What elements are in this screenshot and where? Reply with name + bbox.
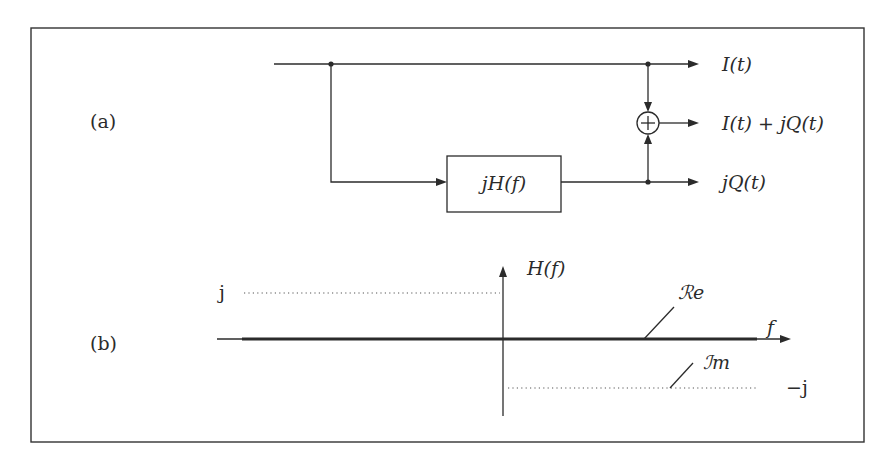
panel-a-label: (a) [90, 110, 116, 132]
figure-frame [31, 28, 864, 442]
arrow-jq-into-adder [644, 134, 652, 144]
output-label-sum: I(t) + jQ(t) [721, 112, 824, 134]
output-label-jq: jQ(t) [718, 171, 766, 193]
imag-part-leader [670, 363, 693, 388]
level-label-minus-j: −j [786, 376, 808, 398]
panel-b-label: (b) [90, 332, 117, 354]
filter-block-label: jH(f) [478, 172, 526, 194]
arrow-output-sum [688, 119, 699, 127]
x-axis-arrow [780, 335, 791, 343]
level-label-j: j [217, 281, 225, 303]
arrow-output-i [688, 60, 699, 68]
adder-icon [637, 112, 659, 134]
panel-b-frequency-response: (b) f H(f) ℛe ℐm j −j [90, 257, 808, 416]
x-axis-label: f [765, 316, 777, 338]
imag-part-label: ℐm [703, 351, 730, 373]
arrow-i-into-adder [644, 102, 652, 112]
panel-a-block-diagram: (a) jH(f) I(t) I(t) + jQ(t) jQ( [90, 53, 824, 212]
y-axis-arrow [499, 266, 507, 277]
y-axis-label: H(f) [526, 257, 565, 279]
arrow-into-filter [436, 178, 447, 186]
arrow-output-jq [688, 178, 699, 186]
output-label-i: I(t) [721, 53, 752, 75]
branch-line-to-filter [331, 64, 438, 182]
real-part-label: ℛe [678, 281, 704, 303]
hilbert-transform-figure: (a) jH(f) I(t) I(t) + jQ(t) jQ( [0, 0, 884, 463]
real-part-leader [644, 307, 674, 339]
